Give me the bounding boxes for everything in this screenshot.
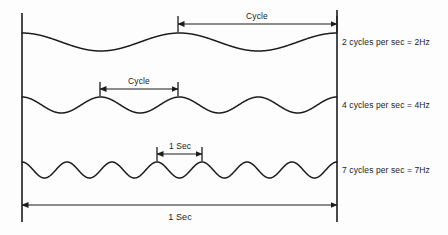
dimension-label-cycle-2hz: Cycle (246, 11, 268, 21)
waveform-4hz (22, 97, 337, 113)
waveform-group (22, 33, 337, 178)
waveform-7hz (22, 162, 337, 178)
row-label-2hz: 2 cycles per sec = 2Hz (342, 37, 430, 47)
waveform-2hz (22, 33, 337, 51)
dimension-label-cycle-4hz: Cycle (128, 76, 150, 86)
frequency-diagram: 2 cycles per sec = 2Hz 4 cycles per sec … (0, 0, 448, 235)
dimension-label-1sec-7hz: 1 Sec (169, 141, 191, 151)
wave-canvas (0, 0, 448, 235)
row-label-7hz: 7 cycles per sec = 7Hz (342, 165, 430, 175)
axis-rules (22, 10, 337, 222)
row-label-4hz: 4 cycles per sec = 4Hz (342, 100, 430, 110)
dimension-label-total-1sec: 1 Sec (168, 212, 192, 222)
